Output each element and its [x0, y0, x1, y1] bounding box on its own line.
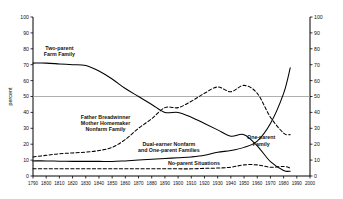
x-tick-label-1990: 1990 [292, 181, 303, 186]
series-label-line: Dual-earner Nonfarm [143, 141, 196, 147]
y-tick-label-left-70: 70 [23, 62, 29, 68]
y-tick-label-right-80: 80 [314, 46, 320, 52]
series-label-two-parent-farm-family: Two-parentFarm Family [44, 45, 75, 57]
series-label-line: No-parent Situations [168, 160, 220, 166]
x-tick-label-1920: 1920 [199, 181, 210, 186]
y-tick-label-right-70: 70 [314, 62, 320, 68]
y-tick-label-left-40: 40 [23, 109, 29, 115]
series-label-line: and One-parent Families [138, 147, 200, 153]
y-tick-label-right-50: 50 [314, 93, 320, 99]
x-tick-label-1870: 1870 [133, 181, 144, 186]
x-tick-label-1980: 1980 [279, 181, 290, 186]
x-tick-label-1900: 1900 [173, 181, 184, 186]
x-tick-label-1860: 1860 [120, 181, 131, 186]
y-tick-label-left-100: 100 [20, 14, 29, 20]
x-tick-label-2000: 2000 [305, 181, 316, 186]
family-structure-chart: 0102030405060708090100010203040506070809… [0, 0, 343, 199]
y-tick-label-left-30: 30 [23, 125, 29, 131]
series-label-dual-earner: Dual-earner Nonfarmand One-parent Famili… [138, 141, 200, 153]
x-tick-label-1800: 1800 [41, 181, 52, 186]
x-tick-label-1880: 1880 [147, 181, 158, 186]
y-tick-label-right-60: 60 [314, 78, 320, 84]
series-label-no-parent-situations: No-parent Situations [168, 160, 220, 166]
y-tick-label-right-40: 40 [314, 109, 320, 115]
x-tick-label-1970: 1970 [265, 181, 276, 186]
y-tick-label-right-20: 20 [314, 141, 320, 147]
chart-canvas: 0102030405060708090100010203040506070809… [0, 0, 343, 199]
series-label-line: Mother Homemaker [81, 120, 130, 126]
x-tick-label-1820: 1820 [67, 181, 78, 186]
x-tick-label-1850: 1850 [107, 181, 118, 186]
y-tick-label-left-80: 80 [23, 46, 29, 52]
series-line-no-parent-situations [33, 165, 290, 169]
x-tick-label-1790: 1790 [28, 181, 39, 186]
x-tick-label-1830: 1830 [81, 181, 92, 186]
y-tick-label-left-20: 20 [23, 141, 29, 147]
series-label-line: Two-parent [45, 45, 73, 51]
y-tick-label-left-50: 50 [23, 93, 29, 99]
y-tick-label-left-90: 90 [23, 30, 29, 36]
series-label-line: Father Breadwinner [81, 114, 131, 120]
y-tick-label-right-100: 100 [314, 14, 323, 20]
y-tick-label-left-10: 10 [23, 157, 29, 163]
x-tick-label-1890: 1890 [160, 181, 171, 186]
y-tick-label-right-10: 10 [314, 157, 320, 163]
x-tick-label-1810: 1810 [54, 181, 65, 186]
series-label-line: One-parent [247, 134, 275, 140]
x-tick-label-1840: 1840 [94, 181, 105, 186]
y-tick-label-right-90: 90 [314, 30, 320, 36]
y-tick-label-left-0: 0 [26, 173, 29, 179]
x-tick-label-1910: 1910 [186, 181, 197, 186]
y-axis-title: percent [7, 87, 13, 105]
x-tick-label-1930: 1930 [213, 181, 224, 186]
y-tick-label-right-30: 30 [314, 125, 320, 131]
y-tick-label-left-60: 60 [23, 78, 29, 84]
series-label-line: Family [253, 141, 270, 147]
x-tick-label-1960: 1960 [252, 181, 263, 186]
series-line-two-parent-farm-family [33, 63, 290, 171]
series-label-line: Nonfarm Family [86, 126, 126, 132]
x-tick-label-1940: 1940 [226, 181, 237, 186]
series-label-line: Farm Family [44, 51, 75, 57]
series-label-father-breadwinner: Father BreadwinnerMother HomemakerNonfar… [81, 114, 131, 132]
y-tick-label-right-0: 0 [314, 173, 317, 179]
x-tick-label-1950: 1950 [239, 181, 250, 186]
